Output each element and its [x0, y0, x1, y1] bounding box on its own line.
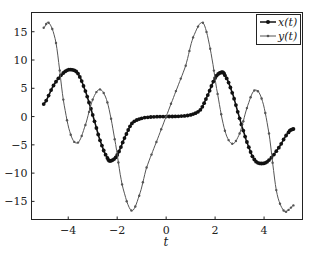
data-point	[91, 113, 95, 117]
data-point	[200, 105, 204, 109]
data-point	[180, 77, 182, 79]
data-point	[121, 141, 125, 145]
x-tick-label: −2	[109, 224, 125, 237]
data-point	[57, 76, 61, 80]
data-point	[87, 101, 91, 105]
data-point	[238, 132, 240, 134]
data-point	[43, 27, 45, 29]
data-point	[84, 89, 88, 93]
y-tick-label: −5	[11, 139, 27, 152]
data-point	[264, 112, 266, 114]
data-point	[165, 115, 167, 117]
data-point	[84, 124, 86, 126]
data-point	[134, 205, 136, 207]
y-tick-label: 15	[14, 26, 28, 39]
data-point	[47, 94, 51, 98]
data-point	[95, 126, 99, 130]
plot-lines	[42, 22, 295, 213]
data-point	[49, 88, 53, 92]
data-point	[73, 141, 75, 143]
data-point	[257, 90, 259, 92]
data-point	[82, 84, 86, 88]
data-point	[100, 144, 104, 148]
data-point	[290, 206, 292, 208]
data-point	[241, 129, 245, 133]
data-point	[279, 203, 281, 205]
x-tick-label: 2	[212, 224, 219, 237]
data-point	[102, 149, 106, 153]
data-point	[45, 23, 47, 25]
data-point	[117, 150, 121, 154]
data-point	[206, 93, 210, 97]
data-point	[202, 22, 204, 24]
data-point	[121, 183, 123, 185]
data-point	[103, 92, 105, 94]
data-point	[85, 95, 89, 99]
data-point	[216, 93, 218, 95]
data-point	[235, 140, 237, 142]
data-point	[145, 166, 147, 168]
x-tick-label: 4	[261, 224, 268, 237]
data-point	[66, 119, 68, 121]
data-point	[62, 98, 64, 100]
data-point	[260, 97, 262, 99]
data-point	[114, 138, 116, 140]
data-point	[210, 84, 214, 88]
data-point	[192, 36, 194, 38]
data-point	[104, 153, 108, 157]
data-point	[155, 141, 157, 143]
data-point	[282, 209, 284, 211]
data-point	[213, 69, 215, 71]
data-point	[204, 97, 208, 101]
data-point	[77, 141, 79, 143]
data-point	[99, 88, 101, 90]
data-point	[224, 130, 226, 132]
data-point	[243, 135, 247, 139]
y-tick-label: 5	[21, 82, 28, 95]
data-point	[287, 209, 289, 211]
data-point	[150, 153, 152, 155]
data-point	[80, 79, 84, 83]
data-point	[70, 134, 72, 136]
data-point	[229, 86, 233, 90]
data-point	[282, 138, 286, 142]
data-point	[54, 80, 58, 84]
data-point	[170, 103, 172, 105]
data-point	[52, 84, 56, 88]
legend-marker-x	[266, 20, 270, 24]
data-point	[130, 209, 132, 211]
x-axis-label: t	[164, 235, 169, 249]
data-point	[188, 50, 190, 52]
y-tick-label: −10	[4, 167, 27, 180]
data-point	[59, 69, 61, 71]
data-point	[92, 98, 94, 100]
data-point	[76, 72, 80, 76]
data-point	[93, 119, 97, 123]
data-point	[268, 132, 270, 134]
data-point	[119, 145, 123, 149]
data-point	[277, 146, 281, 150]
data-point	[202, 101, 206, 105]
data-point	[197, 25, 199, 27]
data-point	[238, 116, 242, 120]
data-point	[227, 139, 229, 141]
data-point	[208, 89, 212, 93]
data-point	[106, 101, 108, 103]
data-point	[47, 22, 49, 24]
data-point	[246, 107, 248, 109]
data-point	[55, 42, 57, 44]
data-point	[253, 89, 255, 91]
data-point	[95, 91, 97, 93]
data-point	[251, 154, 255, 158]
data-point	[279, 142, 283, 146]
data-point	[88, 111, 90, 113]
data-point	[211, 80, 215, 84]
data-point	[245, 140, 249, 144]
series-x	[42, 68, 295, 166]
data-point	[227, 81, 231, 85]
data-point	[284, 134, 288, 138]
data-point	[117, 161, 119, 163]
data-point	[232, 97, 236, 101]
data-point	[160, 128, 162, 130]
data-point	[285, 211, 287, 213]
